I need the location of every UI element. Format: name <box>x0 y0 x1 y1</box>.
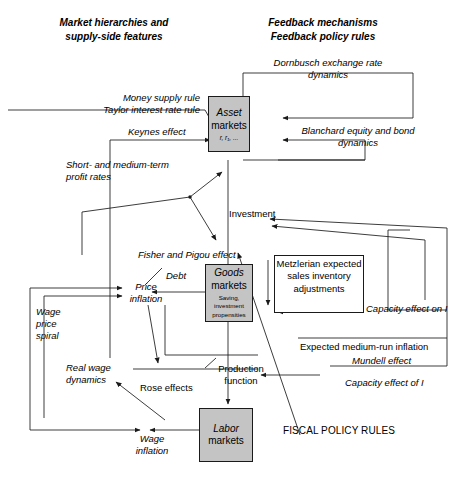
node-asset-markets-line2: markets <box>211 120 247 133</box>
label-taylor-interest-rate-rule: Taylor interest rate rule <box>24 104 200 116</box>
label-fisher-pigou-effect: Fisher and Pigou effect <box>138 249 236 261</box>
node-goods-markets-line2: markets <box>211 280 247 293</box>
edge-price-inflation-to-real-wage <box>148 305 158 363</box>
edge-production-function-tick <box>205 358 216 368</box>
label-expected-medium-run-inflation: Expected medium-run inflation <box>300 341 428 353</box>
label-capacity-effect-of-i: Capacity effect of I <box>345 377 424 389</box>
node-labor-markets-line2: markets <box>208 435 244 448</box>
label-money-supply-rule: Money supply rule <box>24 92 200 104</box>
edge-keynes-effect-to-asset <box>110 140 210 155</box>
node-goods-markets-line1: Goods <box>214 267 243 280</box>
header-left: Market hierarchies and supply-side featu… <box>34 16 194 43</box>
node-goods-markets-sub: Saving, investment propensities <box>206 294 252 318</box>
edge-profitrates-hub-in <box>82 197 190 255</box>
diagram-canvas: Market hierarchies and supply-side featu… <box>0 0 458 489</box>
node-labor-markets-line1: Labor <box>213 423 239 436</box>
label-rose-effects: Rose effects <box>140 382 193 394</box>
label-fiscal-policy-rules: FISCAL POLICY RULES <box>283 425 395 436</box>
label-keynes-effect: Keynes effect <box>128 126 186 138</box>
node-labor-markets: Labor markets <box>199 408 253 462</box>
node-asset-markets-line1: Asset <box>216 107 241 120</box>
edge-capacity-on-i-top <box>270 219 447 228</box>
node-asset-markets: Asset markets r, r₁, ... <box>208 96 250 152</box>
box-metzlerian: Metzlerian expected sales inventory adju… <box>274 255 364 313</box>
label-debt: Debt <box>166 270 186 282</box>
label-wage-price-spiral: Wage price spiral <box>36 306 61 342</box>
label-real-wage-dynamics: Real wage dynamics <box>66 362 111 386</box>
label-dornbusch: Dornbusch exchange rate dynamics <box>243 57 413 81</box>
edge-profitrates-to-goods <box>190 197 216 240</box>
node-goods-markets: Goods markets Saving, investment propens… <box>205 264 253 322</box>
label-price-inflation: Price inflation <box>123 281 169 305</box>
label-mundell-effect: Mundell effect <box>352 355 411 367</box>
label-blanchard: Blanchard equity and bond dynamics <box>278 125 438 149</box>
edge-capacity-on-i-frame <box>388 230 410 310</box>
label-production-function: Production function <box>216 363 266 387</box>
header-right: Feedback mechanisms Feedback policy rule… <box>238 16 408 43</box>
label-wage-inflation: Wage inflation <box>126 433 178 457</box>
label-investment: Investment <box>229 208 275 220</box>
label-capacity-effect-on-i: Capacity effect on I <box>366 303 447 315</box>
node-asset-markets-sub: r, r₁, ... <box>220 134 239 141</box>
label-short-medium-term-profit-rates: Short- and medium-term profit rates <box>66 159 206 183</box>
